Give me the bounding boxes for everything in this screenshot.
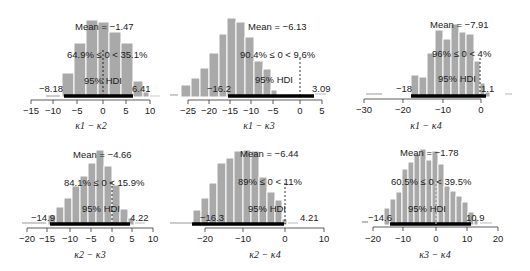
x-tick: −10 <box>435 104 451 115</box>
x-tick: 5 <box>123 105 128 116</box>
hdi-label: 95% HDI <box>84 75 122 86</box>
x-tick: 10 <box>145 105 156 116</box>
x-axis-label: κ1 − κ3 <box>243 120 274 131</box>
x-axis <box>373 227 498 231</box>
x-tick: −10 <box>235 233 251 244</box>
x-tick: −10 <box>62 233 78 244</box>
x-tick: 10 <box>148 233 159 244</box>
x-tick: −5 <box>268 105 279 116</box>
compare-label: 60.5% ≤ 0 < 39.5% <box>391 176 472 187</box>
x-tick: −20 <box>19 233 35 244</box>
hdi-high-label: 4.21 <box>300 212 319 223</box>
x-axis <box>205 228 324 232</box>
x-tick: 0 <box>297 105 302 116</box>
x-tick: −5 <box>86 233 97 244</box>
mean-label: Mean = −1.78 <box>400 147 459 158</box>
x-axis <box>188 100 322 104</box>
x-tick: −20 <box>365 233 381 244</box>
hdi-high-label: 3.09 <box>312 83 331 94</box>
x-axis-label: κ3 − κ4 <box>419 249 450 260</box>
compare-label: 89% ≤ 0 < 11% <box>238 176 302 187</box>
x-tick: −20 <box>395 104 411 115</box>
x-axis-label: κ1 − κ4 <box>410 120 441 131</box>
x-tick: −10 <box>45 105 61 116</box>
x-axis <box>27 228 153 232</box>
mean-label: Mean = −6.13 <box>248 21 307 32</box>
mean-label: Mean = −4.66 <box>73 149 132 160</box>
histogram-k3-k4-svg: Mean = −1.78 60.5% ≤ 0 < 39.5% 95% HDI −… <box>350 135 530 271</box>
x-tick: −30 <box>356 104 372 115</box>
hdi-label: 95% HDI <box>255 74 293 85</box>
compare-label: 96% ≤ 0 < 4% <box>432 48 492 59</box>
hdi-high-label: 4.22 <box>130 212 149 223</box>
x-axis <box>31 100 150 104</box>
x-tick: 10 <box>319 233 330 244</box>
hdi-low-label: −8.18 <box>39 83 63 94</box>
histogram-panel-k1-k3: Mean = −6.13 90.4% ≤ 0 < 9.6% 95% HDI −1… <box>170 0 350 135</box>
x-tick: 0 <box>282 233 287 244</box>
compare-label: 84.1% ≤ 0 < 15.9% <box>64 177 145 188</box>
compare-label: 90.4% ≤ 0 < 9.6% <box>240 49 316 60</box>
histogram-panel-k1-k4: Mean = −7.91 96% ≤ 0 < 4% 95% HDI −18 1.… <box>350 0 530 135</box>
x-axis-label: κ2 − κ3 <box>74 249 105 260</box>
x-tick: 20 <box>493 233 504 244</box>
histogram-panel-k1-k2: Mean = −1.47 64.9% ≤ 0 < 35.1% 95% HDI −… <box>0 0 177 135</box>
mean-label: Mean = −6.44 <box>240 148 299 159</box>
hdi-label: 95% HDI <box>438 73 476 84</box>
mean-label: Mean = −1.47 <box>75 21 134 32</box>
hdi-low-label: −14.6 <box>368 212 392 223</box>
x-tick: 0 <box>100 105 105 116</box>
x-tick: −25 <box>180 105 196 116</box>
x-tick: −15 <box>39 233 55 244</box>
x-tick: −5 <box>72 105 83 116</box>
x-tick: −20 <box>197 233 213 244</box>
x-tick: −10 <box>395 233 411 244</box>
x-tick: 10 <box>462 233 473 244</box>
x-axis-label: κ2 − κ4 <box>249 249 280 260</box>
histogram-k1-k4-svg: Mean = −7.91 96% ≤ 0 < 4% 95% HDI −18 1.… <box>350 0 530 135</box>
hdi-low-label: −14.9 <box>31 212 55 223</box>
histogram-k1-k3-svg: Mean = −6.13 90.4% ≤ 0 < 9.6% 95% HDI −1… <box>170 0 350 135</box>
histogram-panel-k2-k3: Mean = −4.66 84.1% ≤ 0 < 15.9% 95% HDI −… <box>0 135 177 271</box>
hdi-low-label: −16.2 <box>207 83 231 94</box>
x-tick: −15 <box>222 105 238 116</box>
hdi-label: 95% HDI <box>82 203 120 214</box>
histogram-panel-k3-k4: Mean = −1.78 60.5% ≤ 0 < 39.5% 95% HDI −… <box>350 135 530 271</box>
bars <box>411 24 490 97</box>
x-tick: −20 <box>201 105 217 116</box>
hdi-high-label: 1.1 <box>481 83 494 94</box>
x-axis <box>364 99 481 103</box>
x-tick: 0 <box>433 233 438 244</box>
x-tick: 5 <box>319 105 324 116</box>
compare-label: 64.9% ≤ 0 < 35.1% <box>67 49 148 60</box>
hdi-low-label: −16.3 <box>200 212 224 223</box>
hdi-high-label: 6.41 <box>132 83 151 94</box>
hdi-low-label: −18 <box>396 83 412 94</box>
x-axis-label: κ1 − κ2 <box>75 120 106 131</box>
x-tick: 0 <box>109 233 114 244</box>
histogram-k2-k4-svg: Mean = −6.44 89% ≤ 0 < 11% 95% HDI −16.3… <box>170 135 350 271</box>
x-tick: 0 <box>478 104 483 115</box>
x-tick: 5 <box>129 233 134 244</box>
histogram-k1-k2-svg: Mean = −1.47 64.9% ≤ 0 < 35.1% 95% HDI −… <box>0 0 177 135</box>
hdi-label: 95% HDI <box>408 203 446 214</box>
histogram-k2-k3-svg: Mean = −4.66 84.1% ≤ 0 < 15.9% 95% HDI −… <box>0 135 177 271</box>
hdi-label: 95% HDI <box>248 203 286 214</box>
hdi-high-label: 10.9 <box>466 212 485 223</box>
histogram-panel-k2-k4: Mean = −6.44 89% ≤ 0 < 11% 95% HDI −16.3… <box>170 135 350 271</box>
x-tick: −10 <box>243 105 259 116</box>
x-tick: −15 <box>23 105 39 116</box>
mean-label: Mean = −7.91 <box>430 19 489 30</box>
